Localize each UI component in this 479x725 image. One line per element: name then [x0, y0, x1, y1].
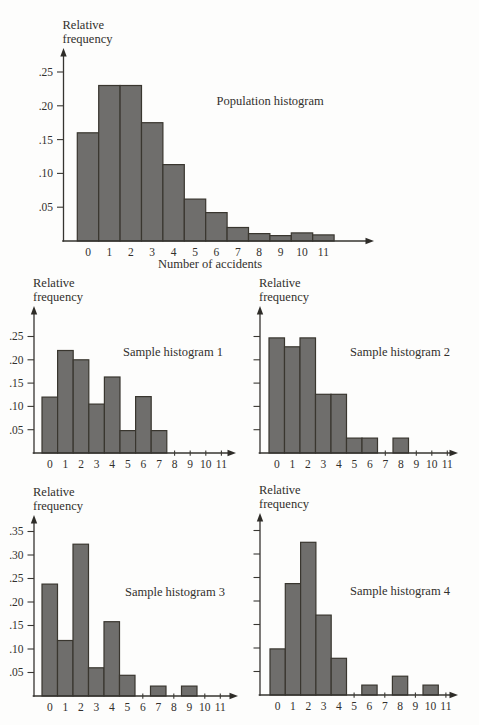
- x-tick-label: 5: [125, 458, 131, 470]
- x-tick-label: 10: [426, 458, 438, 470]
- y-axis-arrow-icon: [60, 48, 66, 57]
- x-tick-label: 11: [318, 246, 329, 258]
- x-tick-label: 10: [200, 458, 212, 470]
- y-tick-label: .30: [9, 549, 24, 561]
- x-tick-label: 3: [320, 458, 326, 470]
- bar-9: [182, 686, 198, 696]
- y-axis-label-line1: Relative: [63, 18, 105, 32]
- x-tick-label: 0: [274, 458, 280, 470]
- x-tick-label: 0: [47, 458, 53, 470]
- y-tick-label: .15: [9, 377, 24, 389]
- bar-2: [120, 86, 141, 242]
- x-tick-label: 7: [382, 700, 388, 712]
- x-tick-label: 9: [187, 458, 193, 470]
- x-axis-arrow-icon: [450, 692, 459, 698]
- x-tick-label: 5: [351, 458, 357, 470]
- y-tick-label: .25: [9, 572, 24, 584]
- x-tick-label: 11: [440, 700, 451, 712]
- x-tick-label: 2: [128, 246, 134, 258]
- population-histogram: .05.10.15.20.2501234567891011Population …: [39, 18, 374, 271]
- x-tick-label: 6: [141, 458, 147, 470]
- x-tick-label: 3: [321, 700, 327, 712]
- sample-histogram-4: 01234567891011Sample histogram 4Relative…: [254, 483, 459, 712]
- x-tick-label: 1: [290, 700, 296, 712]
- x-tick-label: 4: [336, 458, 342, 470]
- sample-histogram-2: 01234567891011Sample histogram 2Relative…: [254, 276, 459, 470]
- x-tick-label: 8: [172, 458, 178, 470]
- y-axis-label-line2: frequency: [33, 499, 84, 513]
- y-axis-label-line1: Relative: [33, 276, 75, 290]
- y-tick-label: .10: [9, 643, 24, 655]
- y-axis-label-line2: frequency: [33, 290, 84, 304]
- x-tick-label: 2: [305, 700, 311, 712]
- x-axis-arrow-icon: [228, 450, 237, 456]
- y-axis-arrow-icon: [31, 306, 37, 315]
- bar-5: [120, 675, 136, 696]
- x-tick-label: 11: [442, 458, 453, 470]
- bar-3: [316, 394, 332, 453]
- chart-title: Population histogram: [217, 94, 325, 108]
- bar-0: [42, 397, 58, 453]
- bar-3: [89, 668, 105, 696]
- x-tick-label: 5: [124, 701, 130, 713]
- y-axis-arrow-icon: [257, 513, 263, 522]
- bar-4: [163, 165, 184, 241]
- y-axis-label-line2: frequency: [259, 497, 310, 511]
- figure-canvas: .05.10.15.20.2501234567891011Population …: [0, 0, 479, 725]
- x-tick-label: 3: [149, 246, 155, 258]
- x-axis-arrow-icon: [366, 238, 375, 244]
- x-tick-label: 1: [63, 458, 69, 470]
- x-tick-label: 5: [351, 700, 357, 712]
- y-tick-label: .20: [9, 354, 24, 366]
- bar-8: [249, 234, 270, 241]
- bar-9: [270, 236, 291, 241]
- bar-6: [206, 213, 227, 241]
- y-axis-label-line2: frequency: [63, 32, 114, 46]
- bar-5: [347, 438, 363, 453]
- bar-10: [423, 685, 438, 695]
- sample-histogram-1: .05.10.15.20.2501234567891011Sample hist…: [9, 276, 236, 470]
- bar-7: [151, 686, 167, 696]
- bar-1: [58, 351, 74, 454]
- bar-5: [120, 431, 136, 453]
- bar-6: [136, 397, 152, 453]
- bar-6: [362, 685, 377, 695]
- x-tick-label: 1: [107, 246, 113, 258]
- chart-title: Sample histogram 3: [125, 585, 225, 599]
- y-tick-label: .25: [9, 330, 24, 342]
- x-tick-label: 9: [186, 701, 192, 713]
- x-tick-label: 4: [109, 458, 115, 470]
- bar-1: [285, 347, 301, 453]
- bar-11: [313, 235, 334, 241]
- x-tick-label: 9: [413, 458, 419, 470]
- bar-4: [104, 377, 120, 453]
- y-axis-label-line2: frequency: [259, 290, 310, 304]
- bar-3: [142, 123, 163, 241]
- chart-title: Sample histogram 1: [123, 345, 223, 359]
- bar-1: [285, 584, 300, 695]
- y-tick-label: .05: [39, 201, 54, 213]
- y-tick-label: .20: [39, 100, 54, 112]
- y-axis-label-line1: Relative: [259, 483, 301, 497]
- x-tick-label: 7: [382, 458, 388, 470]
- x-tick-label: 2: [78, 458, 84, 470]
- x-tick-label: 7: [155, 701, 161, 713]
- bar-4: [104, 622, 120, 696]
- y-axis-label-line1: Relative: [259, 276, 301, 290]
- x-axis-arrow-icon: [450, 450, 459, 456]
- textbook-figure-page: .05.10.15.20.2501234567891011Population …: [0, 0, 479, 725]
- bar-3: [316, 615, 331, 695]
- x-tick-label: 10: [425, 700, 437, 712]
- bar-5: [184, 199, 205, 241]
- bar-1: [99, 86, 120, 242]
- x-tick-label: 1: [289, 458, 295, 470]
- x-tick-label: 9: [413, 700, 419, 712]
- y-axis-arrow-icon: [31, 515, 37, 524]
- x-tick-label: 8: [397, 700, 403, 712]
- x-tick-label: 1: [62, 701, 68, 713]
- bar-6: [362, 438, 378, 453]
- y-tick-label: .15: [9, 619, 24, 631]
- x-axis-arrow-icon: [230, 693, 239, 699]
- y-tick-label: .05: [9, 424, 24, 436]
- y-tick-label: .25: [39, 66, 54, 78]
